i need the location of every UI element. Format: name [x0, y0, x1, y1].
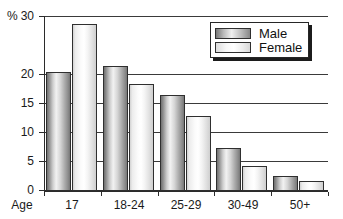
legend-swatch-female-icon	[215, 42, 251, 53]
bar-male-17	[46, 72, 71, 191]
x-tick-label-30-49: 30-49	[228, 198, 259, 212]
y-axis-line	[44, 16, 45, 191]
y-tick-label: 20	[0, 67, 34, 81]
x-tick-mark	[328, 192, 329, 196]
y-tick-label: 0	[0, 183, 34, 197]
x-tick-mark	[271, 192, 272, 196]
bar-male-25-29	[160, 95, 185, 191]
x-tick-label-18-24: 18-24	[114, 198, 145, 212]
x-tick-label-50+: 50+	[290, 198, 310, 212]
legend-item-male: Male	[215, 26, 302, 40]
x-tick-label-25-29: 25-29	[171, 198, 202, 212]
y-tick-label: 30	[0, 9, 34, 23]
gridline	[44, 16, 328, 17]
x-tick-label-17: 17	[65, 198, 78, 212]
bar-male-30-49	[216, 148, 241, 191]
bar-male-50+	[273, 176, 298, 191]
x-tick-mark	[44, 192, 45, 196]
legend-swatch-male-icon	[215, 28, 251, 39]
bar-female-17	[72, 24, 97, 191]
legend-item-female: Female	[215, 40, 302, 54]
chart-legend: Male Female	[210, 22, 309, 58]
y-tick-label: 5	[0, 154, 34, 168]
bar-female-25-29	[186, 116, 211, 191]
legend-label-female: Female	[259, 41, 302, 54]
x-tick-mark	[158, 192, 159, 196]
bar-female-18-24	[129, 84, 154, 191]
bar-female-50+	[299, 181, 324, 191]
bar-chart: % 0510152030 Age1718-2425-2930-4950+ Mal…	[0, 0, 343, 219]
bar-female-30-49	[242, 166, 267, 191]
x-tick-mark	[101, 192, 102, 196]
x-axis-origin-label: Age	[11, 198, 32, 212]
legend-label-male: Male	[259, 27, 287, 40]
y-tick-label: 10	[0, 125, 34, 139]
x-tick-mark	[214, 192, 215, 196]
bar-male-18-24	[103, 66, 128, 191]
y-tick-label: 15	[0, 96, 34, 110]
